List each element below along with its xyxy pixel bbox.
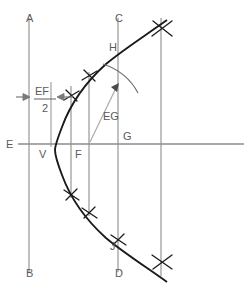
diagram-canvas: EF 2 A B C D E V F G H J EG	[0, 0, 252, 286]
arrow-ef-half-right-head	[57, 94, 64, 101]
point-labels: A B C D E V F G H J	[6, 12, 132, 279]
label-a: A	[26, 12, 34, 24]
tick-cross-bottom-right	[152, 255, 172, 269]
label-b: B	[26, 267, 33, 279]
leader-label-eg: EG	[103, 110, 119, 122]
dimension-ef-over-2: EF 2	[34, 85, 56, 114]
dimension-ef-numerator: EF	[35, 85, 49, 97]
label-f: F	[75, 148, 82, 160]
label-h: H	[109, 41, 117, 53]
label-e: E	[6, 138, 13, 150]
label-j: J	[110, 240, 116, 252]
geometry-diagram: EF 2 A B C D E V F G H J EG	[0, 0, 252, 286]
vertical-construction-lines	[29, 18, 161, 276]
label-d: D	[115, 267, 123, 279]
label-g: G	[123, 130, 132, 142]
tangent-arc-at-h	[103, 64, 138, 93]
label-c: C	[115, 12, 123, 24]
dimension-ef-denominator: 2	[42, 102, 48, 114]
label-v: V	[39, 148, 47, 160]
